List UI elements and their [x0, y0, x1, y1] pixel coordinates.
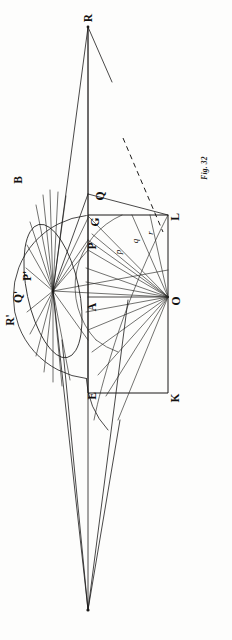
label-R: R [82, 13, 94, 22]
label-B: B [12, 176, 24, 184]
figure-container: R B Q G P L A O E K P' Q' R' p q r Fig. … [0, 0, 232, 640]
label-G: G [89, 217, 101, 226]
label-P: P [86, 242, 98, 249]
label-Q: Q [94, 191, 106, 200]
dot-apex-bottom [86, 608, 89, 611]
dot-mirror-center [51, 289, 54, 292]
label-R-prime: R' [4, 314, 16, 326]
vertex-connector-lines [53, 194, 168, 297]
figure-labels: R B Q G P L A O E K P' Q' R' p q r [4, 13, 182, 402]
label-L: L [169, 213, 181, 221]
figure-caption: Fig. 32 [200, 156, 209, 180]
label-ray-q: q [130, 238, 140, 243]
label-ray-p: p [113, 249, 123, 255]
label-O: O [170, 296, 182, 305]
rays-to-apex-bottom [53, 291, 128, 610]
figure-caption-group: Fig. 32 [200, 156, 209, 180]
rays-to-apex-R [53, 27, 112, 291]
label-Q-prime: Q' [12, 291, 24, 303]
dashed-ray [123, 138, 163, 232]
ray-fan-from-O [86, 215, 168, 420]
vertex-dots [51, 26, 89, 612]
label-P-prime: P' [21, 271, 33, 281]
dot-apex-R [87, 26, 90, 29]
label-E: E [86, 392, 98, 400]
figure-diagram: R B Q G P L A O E K P' Q' R' p q r Fig. … [0, 0, 232, 640]
label-K: K [169, 393, 181, 402]
label-A: A [86, 302, 98, 311]
label-ray-r: r [145, 231, 155, 235]
